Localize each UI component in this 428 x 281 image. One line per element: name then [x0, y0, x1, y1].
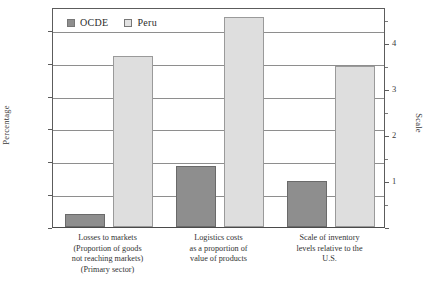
- legend-label-ocde: OCDE: [80, 17, 108, 28]
- y-tickmark-right: [385, 90, 389, 91]
- y-tickmark-left: [48, 64, 52, 65]
- y-tickmark-right: [385, 136, 389, 137]
- legend-swatch-peru-icon: [124, 19, 132, 27]
- y-tickmark-right: [385, 182, 389, 183]
- legend-item-peru: Peru: [124, 17, 157, 28]
- bar-ocde-group3: [287, 181, 327, 227]
- legend-label-peru: Peru: [137, 17, 157, 28]
- y-axis-left-title: Percentage: [1, 95, 11, 155]
- legend-swatch-ocde-icon: [67, 19, 75, 27]
- bar-ocde-group2: [176, 166, 216, 227]
- y-tickmark-right-minor: [385, 159, 388, 160]
- category-label-line: Scale of inventory: [265, 233, 395, 244]
- y-tick-right-4: 4: [392, 38, 408, 48]
- y-tickmark-left: [48, 31, 52, 32]
- y-tickmark-left: [48, 228, 52, 229]
- chart-legend: OCDE Peru: [67, 17, 157, 28]
- y-tickmark-right-minor: [385, 113, 388, 114]
- category-label-3: Scale of inventorylevels relative to the…: [265, 233, 395, 265]
- y-tickmark-right: [385, 228, 389, 229]
- y-tickmark-left: [48, 97, 52, 98]
- y-tickmark-left: [48, 195, 52, 196]
- bar-ocde-group1: [65, 214, 105, 227]
- y-tickmark-left: [48, 129, 52, 130]
- y-tick-right-3: 3: [392, 84, 408, 94]
- bar-chart-figure: Percentage Scale OCDE Peru 051015202530 …: [0, 0, 428, 281]
- category-label-line: (Primary sector): [43, 265, 173, 276]
- legend-item-ocde: OCDE: [67, 17, 108, 28]
- y-axis-right-title: Scale: [414, 100, 424, 146]
- plot-area: OCDE Peru: [52, 8, 385, 228]
- bar-peru-group1: [113, 56, 153, 227]
- y-tick-right-1: 1: [392, 176, 408, 186]
- category-label-line: levels relative to the: [265, 244, 395, 255]
- gridline: [53, 32, 384, 33]
- y-tickmark-right-minor: [385, 67, 388, 68]
- bar-peru-group2: [224, 17, 264, 227]
- y-tickmark-left: [48, 162, 52, 163]
- y-tickmark-right: [385, 44, 389, 45]
- bar-peru-group3: [335, 66, 375, 227]
- category-label-line: U.S.: [265, 254, 395, 265]
- y-tickmark-right-minor: [385, 21, 388, 22]
- y-tickmark-right-minor: [385, 205, 388, 206]
- y-tick-right-2: 2: [392, 130, 408, 140]
